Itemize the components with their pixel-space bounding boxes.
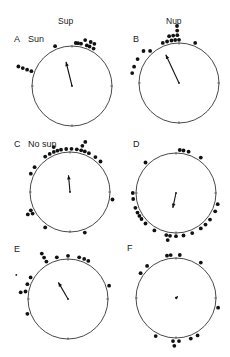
orientation-dot <box>45 260 49 264</box>
orientation-dot <box>169 253 173 257</box>
orientation-dot <box>161 41 165 45</box>
orientation-dot <box>21 66 25 70</box>
column-header-sup: Sup <box>58 16 73 26</box>
small-mark <box>15 274 17 276</box>
orientation-dot <box>131 191 135 195</box>
panel-label: F <box>127 243 133 253</box>
orientation-dot <box>204 223 208 227</box>
panel-label: D <box>133 139 140 149</box>
orientation-dot <box>64 147 68 151</box>
orientation-dot <box>93 42 97 46</box>
orientation-dot <box>154 334 158 338</box>
orientation-dot <box>175 33 179 37</box>
orientation-dot <box>83 38 87 42</box>
panel-label: C <box>14 139 21 149</box>
orientation-dot <box>24 290 28 294</box>
center-point <box>69 191 71 193</box>
orientation-dot <box>208 218 212 222</box>
orientation-dot <box>48 152 52 156</box>
orientation-dot <box>144 222 148 226</box>
orientation-dot <box>75 147 79 151</box>
orientation-dot <box>165 254 169 258</box>
orientation-dot <box>138 214 142 218</box>
orientation-dot <box>177 339 181 343</box>
orientation-dot <box>70 147 74 151</box>
column-header-nup: Nup <box>166 16 182 26</box>
orientation-dot <box>175 29 179 33</box>
orientation-dot <box>86 259 90 263</box>
orientation-dot <box>29 276 33 280</box>
orientation-dot <box>199 261 203 265</box>
orientation-dot <box>40 252 44 256</box>
orientation-dot <box>145 264 149 268</box>
center-point <box>67 298 69 300</box>
orientation-dot <box>111 198 115 202</box>
orientation-dot <box>140 217 144 221</box>
orientation-dot <box>94 155 98 159</box>
orientation-dot <box>182 234 186 238</box>
orientation-dot <box>213 209 217 213</box>
orientation-dot <box>171 34 175 38</box>
orientation-dot <box>77 255 81 259</box>
orientation-dot <box>153 229 157 233</box>
orientation-dot <box>182 149 186 153</box>
orientation-dot <box>173 38 177 42</box>
panel-e: E <box>14 244 111 340</box>
center-point <box>178 82 180 84</box>
orientation-dot <box>25 68 29 72</box>
orientation-dot <box>83 231 87 235</box>
orientation-dot <box>89 40 93 44</box>
orientation-dot <box>82 257 86 261</box>
orientation-dot <box>216 306 220 310</box>
orientation-dot <box>166 238 170 242</box>
orientation-dot <box>193 41 197 45</box>
orientation-dot <box>178 148 182 152</box>
orientation-dot <box>196 334 200 338</box>
circular-plots-figure: Sup Nup ASunBCNo sunDEF <box>0 0 230 357</box>
orientation-dot <box>144 161 148 165</box>
orientation-dot <box>26 312 30 316</box>
orientation-dot <box>33 165 37 169</box>
orientation-dot <box>59 148 63 152</box>
orientation-dot <box>79 42 83 46</box>
orientation-dot <box>171 339 175 343</box>
orientation-dot <box>148 49 152 53</box>
orientation-dot <box>56 149 60 153</box>
orientation-dot <box>99 160 103 164</box>
orientation-dot <box>29 208 33 212</box>
center-point <box>71 85 73 87</box>
orientation-dot <box>168 234 172 238</box>
orientation-dot <box>52 145 56 149</box>
orientation-dot <box>167 34 171 38</box>
panel-a: ASun <box>14 34 113 127</box>
orientation-dot <box>53 44 57 48</box>
orientation-dot <box>29 172 33 176</box>
orientation-dot <box>199 227 203 231</box>
orientation-dot <box>187 150 191 154</box>
orientation-dot <box>177 38 181 42</box>
panel-b: B <box>130 24 219 124</box>
panel-d: D <box>131 139 220 242</box>
condition-label: Sun <box>28 34 44 44</box>
orientation-dot <box>172 344 176 348</box>
orientation-dot <box>55 255 59 259</box>
panel-label: E <box>14 244 20 254</box>
orientation-dot <box>199 156 203 160</box>
orientation-dot <box>178 253 182 257</box>
orientation-dot <box>17 65 21 69</box>
orientation-dot <box>142 49 146 53</box>
orientation-dot <box>79 148 83 152</box>
orientation-dot <box>83 150 87 154</box>
orientation-dot <box>134 206 138 210</box>
orientation-dot <box>52 150 56 154</box>
orientation-dot <box>190 231 194 235</box>
orientation-dot <box>189 337 193 341</box>
orientation-dot <box>87 151 91 155</box>
orientation-dot <box>26 213 30 217</box>
orientation-dot <box>164 233 168 237</box>
orientation-dot <box>43 155 47 159</box>
center-point <box>175 192 177 194</box>
orientation-dot <box>92 47 96 51</box>
orientation-dot <box>42 256 46 260</box>
orientation-dot <box>216 202 220 206</box>
